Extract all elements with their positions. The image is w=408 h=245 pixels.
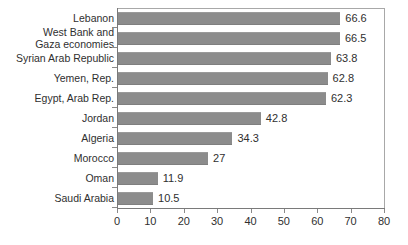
category-label: Syrian Arab Republic: [2, 48, 114, 68]
bar-value-label: 42.8: [266, 111, 287, 125]
x-axis-tick: [384, 209, 385, 213]
bar-value-label: 63.8: [336, 51, 357, 65]
x-axis-tick: [150, 209, 151, 213]
bar-value-label: 66.6: [345, 11, 366, 25]
bar: [118, 132, 232, 145]
category-label: Oman: [2, 168, 114, 188]
bar-value-label: 34.3: [237, 131, 258, 145]
bar: [118, 172, 158, 185]
x-axis-tick: [317, 209, 318, 213]
category-label-line: Algeria: [81, 133, 114, 144]
category-label: Jordan: [2, 108, 114, 128]
bar-value-label: 27: [213, 151, 225, 165]
category-label: Lebanon: [2, 8, 114, 28]
bar-value-label: 10.5: [158, 191, 179, 205]
bar-row: Morocco27: [0, 148, 408, 168]
bar-row: Syrian Arab Republic63.8: [0, 48, 408, 68]
category-label-line: Lebanon: [73, 13, 114, 24]
bar-row: Saudi Arabia10.5: [0, 188, 408, 208]
bar-row: Oman11.9: [0, 168, 408, 188]
bar: [118, 92, 326, 105]
bar: [118, 152, 208, 165]
bar-row: Algeria34.3: [0, 128, 408, 148]
bar-chart: Lebanon66.6West Bank andGaza economies66…: [0, 0, 408, 245]
bar-value-label: 11.9: [163, 171, 184, 185]
bar: [118, 72, 328, 85]
category-label-line: Egypt, Arab Rep.: [35, 93, 114, 104]
x-axis-tick-label: 80: [364, 215, 404, 228]
bar: [118, 52, 331, 65]
x-axis-tick: [184, 209, 185, 213]
category-label: Yemen, Rep.: [2, 68, 114, 88]
bar-value-label: 62.8: [333, 71, 354, 85]
category-label: Algeria: [2, 128, 114, 148]
bar-row: Yemen, Rep.62.8: [0, 68, 408, 88]
x-axis-tick: [251, 209, 252, 213]
category-label-line: Yemen, Rep.: [54, 73, 114, 84]
category-label-line: Syrian Arab Republic: [16, 53, 114, 64]
category-label: West Bank andGaza economies: [2, 28, 114, 48]
bar-row: Egypt, Arab Rep.62.3: [0, 88, 408, 108]
y-axis-tick: [112, 207, 117, 208]
category-label: Egypt, Arab Rep.: [2, 88, 114, 108]
bar-rows: Lebanon66.6West Bank andGaza economies66…: [0, 8, 408, 208]
bar-row: West Bank andGaza economies66.5: [0, 28, 408, 48]
bar: [118, 112, 261, 125]
category-label-line: Morocco: [74, 153, 114, 164]
category-label-line: Jordan: [82, 113, 114, 124]
bar: [118, 32, 340, 45]
bar: [118, 192, 153, 205]
x-axis-tick: [284, 209, 285, 213]
bar-value-label: 66.5: [345, 31, 366, 45]
bar: [118, 12, 340, 25]
x-axis-tick: [351, 209, 352, 213]
category-label: Saudi Arabia: [2, 188, 114, 208]
x-axis-tick: [217, 209, 218, 213]
category-label-line: Oman: [85, 173, 114, 184]
bar-value-label: 62.3: [331, 91, 352, 105]
category-label: Morocco: [2, 148, 114, 168]
bar-row: Lebanon66.6: [0, 8, 408, 28]
category-label-line: Saudi Arabia: [54, 193, 114, 204]
category-label-line: West Bank and: [43, 27, 114, 38]
bar-row: Jordan42.8: [0, 108, 408, 128]
x-axis-tick: [117, 209, 118, 213]
